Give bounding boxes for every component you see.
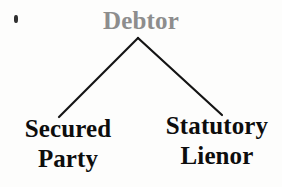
node-secured-party-label-line1: Secured xyxy=(25,115,111,142)
node-secured-party: Secured Party xyxy=(0,116,142,173)
node-statutory-lienor-label-line1: Statutory xyxy=(166,112,268,139)
edge-debtor-statutory-lienor xyxy=(138,38,222,115)
edge-debtor-secured-party xyxy=(59,38,138,117)
node-statutory-lienor-label-line2: Lienor xyxy=(146,143,282,169)
node-debtor-label: Debtor xyxy=(103,7,179,34)
node-statutory-lienor: Statutory Lienor xyxy=(146,113,282,170)
diagram-canvas: Debtor Secured Party Statutory Lienor xyxy=(0,0,282,187)
node-secured-party-label-line2: Party xyxy=(0,146,142,172)
node-debtor: Debtor xyxy=(0,8,282,34)
